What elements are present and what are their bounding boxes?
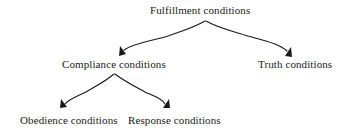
arrowhead-truth (285, 47, 292, 57)
node-label-obedience-conditions: Obedience conditions (20, 114, 118, 127)
edge-root-to-truth (206, 21, 287, 51)
edge-compliance-to-obedience (65, 74, 114, 104)
arrowhead-compliance (119, 46, 126, 56)
node-label-compliance-conditions: Compliance conditions (62, 58, 166, 71)
node-label-fulfillment-conditions: Fulfillment conditions (150, 4, 250, 17)
node-label-truth-conditions: Truth conditions (258, 58, 332, 71)
edge-root-to-compliance (124, 21, 205, 50)
tree-diagram: Fulfillment conditions Compliance condit… (0, 0, 344, 140)
edge-compliance-to-response (115, 74, 165, 104)
node-label-response-conditions: Response conditions (128, 114, 221, 127)
